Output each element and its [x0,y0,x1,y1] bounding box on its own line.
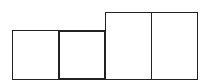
square [105,12,152,80]
square [12,30,59,80]
highlighted-square [58,30,106,80]
square [151,12,198,80]
